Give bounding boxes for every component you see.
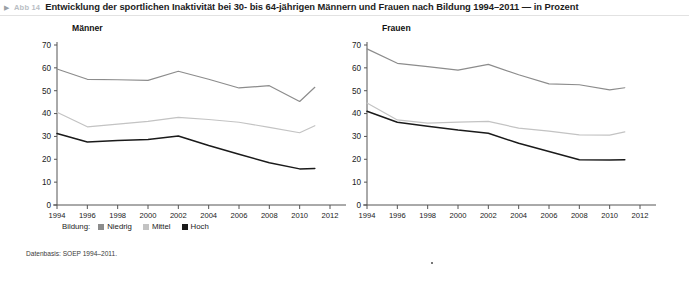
line-chart-maenner: 0102030405060701994199619982000200220042… bbox=[30, 18, 350, 238]
svg-text:50: 50 bbox=[352, 87, 362, 96]
header-divider bbox=[0, 15, 689, 16]
svg-text:60: 60 bbox=[352, 64, 362, 73]
line-chart-frauen: 0102030405060701994199619982000200220042… bbox=[340, 18, 660, 238]
legend-label-mittel: Mittel bbox=[152, 222, 171, 231]
svg-text:40: 40 bbox=[42, 109, 52, 118]
svg-text:2008: 2008 bbox=[261, 211, 278, 220]
svg-text:30: 30 bbox=[352, 132, 362, 141]
figure-title: Entwicklung der sportlichen Inaktivität … bbox=[45, 1, 578, 12]
legend-label-hoch: Hoch bbox=[191, 222, 209, 231]
legend-item-hoch: Hoch bbox=[182, 222, 209, 231]
chart-panel-maenner: Männer 010203040506070199419961998200020… bbox=[30, 18, 350, 238]
svg-text:2006: 2006 bbox=[541, 211, 558, 220]
svg-text:1998: 1998 bbox=[109, 211, 126, 220]
legend-title: Bildung: bbox=[62, 222, 90, 231]
source-note: Datenbasis: SOEP 1994–2011. bbox=[26, 250, 117, 257]
svg-text:2012: 2012 bbox=[322, 211, 339, 220]
svg-text:1996: 1996 bbox=[389, 211, 406, 220]
legend-item-mittel: Mittel bbox=[143, 222, 171, 231]
svg-text:60: 60 bbox=[42, 64, 52, 73]
svg-text:2004: 2004 bbox=[510, 211, 527, 220]
svg-text:2008: 2008 bbox=[571, 211, 588, 220]
svg-text:10: 10 bbox=[42, 178, 52, 187]
svg-text:1994: 1994 bbox=[49, 211, 66, 220]
svg-text:20: 20 bbox=[352, 155, 362, 164]
svg-text:1998: 1998 bbox=[419, 211, 436, 220]
svg-text:2000: 2000 bbox=[450, 211, 467, 220]
svg-text:20: 20 bbox=[42, 155, 52, 164]
svg-text:0: 0 bbox=[356, 201, 361, 210]
svg-text:1996: 1996 bbox=[79, 211, 96, 220]
svg-text:2004: 2004 bbox=[200, 211, 217, 220]
svg-text:30: 30 bbox=[42, 132, 52, 141]
svg-text:2010: 2010 bbox=[291, 211, 308, 220]
legend-swatch-hoch bbox=[182, 224, 188, 230]
svg-text:1994: 1994 bbox=[359, 211, 376, 220]
figure-marker-icon: ▶ bbox=[4, 4, 9, 11]
svg-text:2000: 2000 bbox=[140, 211, 157, 220]
svg-text:2002: 2002 bbox=[170, 211, 187, 220]
legend-swatch-mittel bbox=[143, 224, 149, 230]
svg-text:2002: 2002 bbox=[480, 211, 497, 220]
legend-item-niedrig: Niedrig bbox=[98, 222, 132, 231]
legend-label-niedrig: Niedrig bbox=[107, 222, 132, 231]
svg-text:0: 0 bbox=[46, 201, 51, 210]
stray-dot bbox=[431, 262, 433, 264]
svg-text:2010: 2010 bbox=[601, 211, 618, 220]
figure-header: ▶ Abb 14 Entwicklung der sportlichen Ina… bbox=[0, 0, 689, 14]
svg-text:2006: 2006 bbox=[231, 211, 248, 220]
svg-text:70: 70 bbox=[352, 41, 362, 50]
chart-panels: Männer 010203040506070199419961998200020… bbox=[0, 18, 689, 238]
svg-text:70: 70 bbox=[42, 41, 52, 50]
chart-panel-frauen: Frauen 010203040506070199419961998200020… bbox=[340, 18, 660, 238]
figure-number: Abb 14 bbox=[14, 3, 40, 12]
svg-text:2012: 2012 bbox=[632, 211, 649, 220]
svg-text:50: 50 bbox=[42, 87, 52, 96]
svg-text:10: 10 bbox=[352, 178, 362, 187]
legend-swatch-niedrig bbox=[98, 224, 104, 230]
svg-text:40: 40 bbox=[352, 109, 362, 118]
chart-legend: Bildung: Niedrig Mittel Hoch bbox=[62, 222, 214, 231]
